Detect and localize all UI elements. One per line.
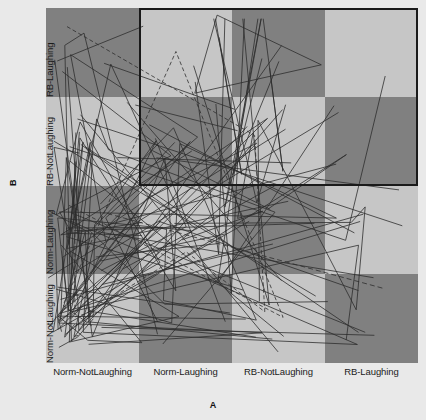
highlight-rectangle [139, 8, 418, 186]
y-tick-label-3: RB-Laughing [44, 0, 55, 97]
highlight-layer [46, 8, 418, 363]
x-tick-label-1: Norm-Laughing [139, 366, 232, 377]
x-tick-label-2: RB-NotLaughing [232, 366, 325, 377]
fluctuation-diagram-figure: Norm-NotLaughing Norm-Laughing RB-NotLau… [0, 0, 426, 420]
x-tick-label-0: Norm-NotLaughing [46, 366, 139, 377]
y-axis-title: B [8, 180, 18, 187]
plot-area [46, 8, 418, 363]
x-tick-label-3: RB-Laughing [325, 366, 418, 377]
x-axis-title: A [0, 400, 426, 410]
